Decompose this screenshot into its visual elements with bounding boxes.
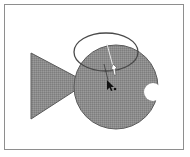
fish-body[interactable] [74, 45, 158, 129]
anchor-dot [114, 88, 117, 91]
drawing-canvas[interactable] [0, 0, 190, 157]
